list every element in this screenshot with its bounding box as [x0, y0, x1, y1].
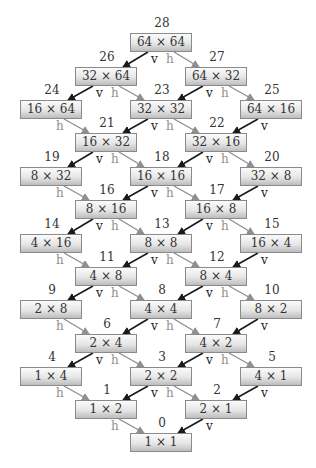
v-label: v	[206, 87, 213, 99]
vertical-split-arrow	[68, 152, 93, 167]
node-number: 21	[92, 116, 122, 130]
vertical-split-arrow	[68, 286, 93, 300]
block-size-node: 32 × 32	[130, 100, 192, 119]
block-size-node: 2 × 1	[185, 400, 247, 419]
block-size-node: 32 × 64	[75, 67, 137, 86]
block-size-node: 1 × 4	[20, 367, 82, 386]
node-number: 23	[147, 83, 177, 97]
horizontal-split-arrow	[119, 419, 144, 433]
v-label: v	[261, 187, 268, 199]
v-label: v	[151, 187, 158, 199]
node-number: 3	[147, 350, 177, 364]
node-number: 22	[202, 116, 232, 130]
v-label: v	[151, 53, 158, 65]
node-number: 25	[257, 83, 287, 97]
v-label: v	[261, 387, 268, 399]
vertical-split-arrow	[233, 319, 258, 334]
h-label: h	[221, 354, 229, 366]
v-label: v	[206, 287, 213, 299]
node-number: 26	[92, 50, 122, 64]
h-label: h	[166, 320, 174, 332]
v-label: v	[261, 254, 268, 266]
node-number: 1	[92, 383, 122, 397]
v-label: v	[261, 120, 268, 132]
node-number: 4	[37, 350, 67, 364]
h-label: h	[166, 53, 174, 65]
vertical-split-arrow	[178, 419, 203, 433]
node-number: 24	[37, 83, 67, 97]
node-number: 7	[202, 317, 232, 331]
block-size-node: 8 × 32	[20, 167, 82, 186]
horizontal-split-arrow	[174, 186, 199, 200]
h-label: h	[56, 254, 64, 266]
block-size-node: 8 × 16	[75, 200, 137, 219]
horizontal-split-arrow	[64, 186, 89, 200]
h-label: h	[56, 120, 64, 132]
h-label: h	[166, 254, 174, 266]
horizontal-split-arrow	[64, 319, 89, 334]
v-label: v	[206, 354, 213, 366]
h-label: h	[111, 287, 119, 299]
h-label: h	[56, 387, 64, 399]
node-number: 20	[257, 150, 287, 164]
h-label: h	[56, 320, 64, 332]
v-label: v	[96, 153, 103, 165]
node-number: 8	[147, 283, 177, 297]
node-number: 10	[257, 283, 287, 297]
block-size-node: 4 × 8	[75, 267, 137, 286]
vertical-split-arrow	[123, 253, 148, 267]
vertical-split-arrow	[233, 253, 258, 267]
block-size-node: 4 × 1	[240, 367, 302, 386]
horizontal-split-arrow	[174, 253, 199, 267]
node-number: 0	[147, 416, 177, 430]
horizontal-split-arrow	[229, 286, 254, 300]
block-size-node: 8 × 2	[240, 300, 302, 319]
node-number: 15	[257, 217, 287, 231]
horizontal-split-arrow	[119, 86, 144, 100]
v-label: v	[96, 220, 103, 232]
block-size-node: 4 × 16	[20, 234, 82, 253]
block-size-node: 32 × 16	[185, 133, 247, 152]
v-label: v	[206, 153, 213, 165]
node-number: 14	[37, 217, 67, 231]
horizontal-split-arrow	[229, 219, 254, 234]
horizontal-split-arrow	[64, 119, 89, 133]
horizontal-split-arrow	[174, 52, 199, 67]
v-label: v	[96, 87, 103, 99]
vertical-split-arrow	[233, 386, 258, 400]
horizontal-split-arrow	[229, 152, 254, 167]
h-label: h	[166, 120, 174, 132]
block-size-node: 64 × 32	[185, 67, 247, 86]
vertical-split-arrow	[68, 353, 93, 367]
horizontal-split-arrow	[229, 353, 254, 367]
horizontal-split-arrow	[229, 86, 254, 100]
h-label: h	[56, 187, 64, 199]
vertical-split-arrow	[178, 353, 203, 367]
node-number: 16	[92, 183, 122, 197]
horizontal-split-arrow	[174, 386, 199, 400]
block-size-node: 2 × 8	[20, 300, 82, 319]
block-size-node: 2 × 2	[130, 367, 192, 386]
block-size-node: 8 × 4	[185, 267, 247, 286]
h-label: h	[111, 153, 119, 165]
vertical-split-arrow	[233, 186, 258, 200]
node-number: 2	[202, 383, 232, 397]
h-label: h	[221, 287, 229, 299]
node-number: 6	[92, 317, 122, 331]
horizontal-split-arrow	[119, 219, 144, 234]
vertical-split-arrow	[68, 219, 93, 234]
h-label: h	[221, 220, 229, 232]
h-label: h	[111, 354, 119, 366]
block-size-node: 16 × 64	[20, 100, 82, 119]
block-size-node: 16 × 16	[130, 167, 192, 186]
vertical-split-arrow	[178, 86, 203, 100]
v-label: v	[96, 287, 103, 299]
horizontal-split-arrow	[119, 152, 144, 167]
node-number: 27	[202, 50, 232, 64]
h-label: h	[111, 87, 119, 99]
v-label: v	[261, 320, 268, 332]
vertical-split-arrow	[123, 52, 148, 67]
node-number: 18	[147, 150, 177, 164]
h-label: h	[111, 420, 119, 432]
horizontal-split-arrow	[64, 386, 89, 400]
